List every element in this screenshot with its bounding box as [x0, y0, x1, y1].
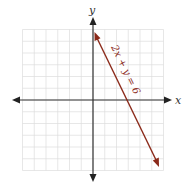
x-axis-arrow-left-icon: [12, 97, 20, 104]
y-axis-label: y: [88, 4, 96, 17]
equation-line: [96, 36, 157, 162]
coordinate-plane: x y 2x + y = 6: [0, 0, 190, 183]
y-axis-arrow-up-icon: [90, 17, 97, 25]
x-axis-arrow-right-icon: [164, 97, 172, 104]
x-axis-label: x: [175, 94, 182, 107]
y-axis-arrow-down-icon: [90, 174, 97, 182]
